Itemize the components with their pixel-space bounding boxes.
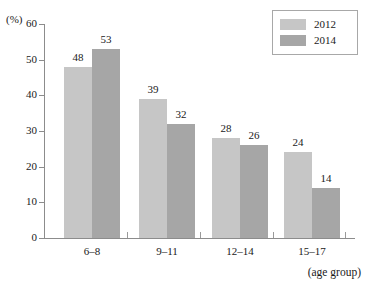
x-axis-separator-tick <box>127 232 128 238</box>
y-axis-tick-mark <box>39 131 44 132</box>
bar-value-label: 53 <box>101 33 112 46</box>
y-axis-tick-mark <box>39 60 44 61</box>
bar-value-label: 28 <box>221 122 232 135</box>
legend-label: 2012 <box>314 18 336 31</box>
bar-value-label: 26 <box>249 129 260 142</box>
bar: 26 <box>240 145 268 238</box>
bar: 32 <box>167 124 195 238</box>
x-axis-separator-tick <box>345 232 346 238</box>
x-axis-category-label: 12–14 <box>226 244 254 258</box>
legend: 20122014 <box>272 10 358 55</box>
y-axis-tick-label: 0 <box>32 230 38 245</box>
bar: 53 <box>92 49 120 238</box>
bar-value-label: 48 <box>73 51 84 64</box>
bar-group: 282612–14 <box>212 12 268 238</box>
x-axis-separator-tick <box>200 232 201 238</box>
bar-value-label: 14 <box>321 172 332 185</box>
legend-swatch <box>280 35 306 46</box>
x-axis-category-label: 9–11 <box>156 244 178 258</box>
y-axis-tick-label: 10 <box>26 194 37 209</box>
x-axis-category-label: 6–8 <box>84 244 101 258</box>
x-axis-line <box>44 238 355 239</box>
bar-value-label: 32 <box>176 108 187 121</box>
bar-chart: 0102030405060 48536–839329–11282612–1424… <box>0 0 371 292</box>
bar-group: 48536–8 <box>64 12 120 238</box>
y-axis-tick-mark <box>39 95 44 96</box>
bar-value-label: 24 <box>293 136 304 149</box>
legend-label: 2014 <box>314 34 336 47</box>
bar-group: 39329–11 <box>139 12 195 238</box>
y-axis-tick-mark <box>39 238 44 239</box>
x-axis-title: (age group) <box>308 265 361 280</box>
y-axis-tick-mark <box>39 24 44 25</box>
y-axis-tick-mark <box>39 202 44 203</box>
legend-item: 2012 <box>280 17 350 32</box>
legend-swatch <box>280 19 306 30</box>
y-axis-tick-label: 20 <box>26 159 37 174</box>
y-axis-tick-label: 50 <box>26 52 37 67</box>
y-axis-tick-label: 40 <box>26 87 37 102</box>
y-axis-line <box>44 24 45 238</box>
y-axis-tick-label: 30 <box>26 123 37 138</box>
bar: 48 <box>64 67 92 238</box>
bar-value-label: 39 <box>148 83 159 96</box>
bar: 14 <box>312 188 340 238</box>
y-axis-tick-label: 60 <box>26 16 37 31</box>
x-axis-separator-tick <box>273 232 274 238</box>
y-axis-tick-mark <box>39 167 44 168</box>
x-axis-category-label: 15–17 <box>298 244 326 258</box>
bar: 39 <box>139 99 167 238</box>
bar: 24 <box>284 152 312 238</box>
bar: 28 <box>212 138 240 238</box>
y-axis-unit-label: (%) <box>6 12 23 26</box>
legend-item: 2014 <box>280 33 350 48</box>
